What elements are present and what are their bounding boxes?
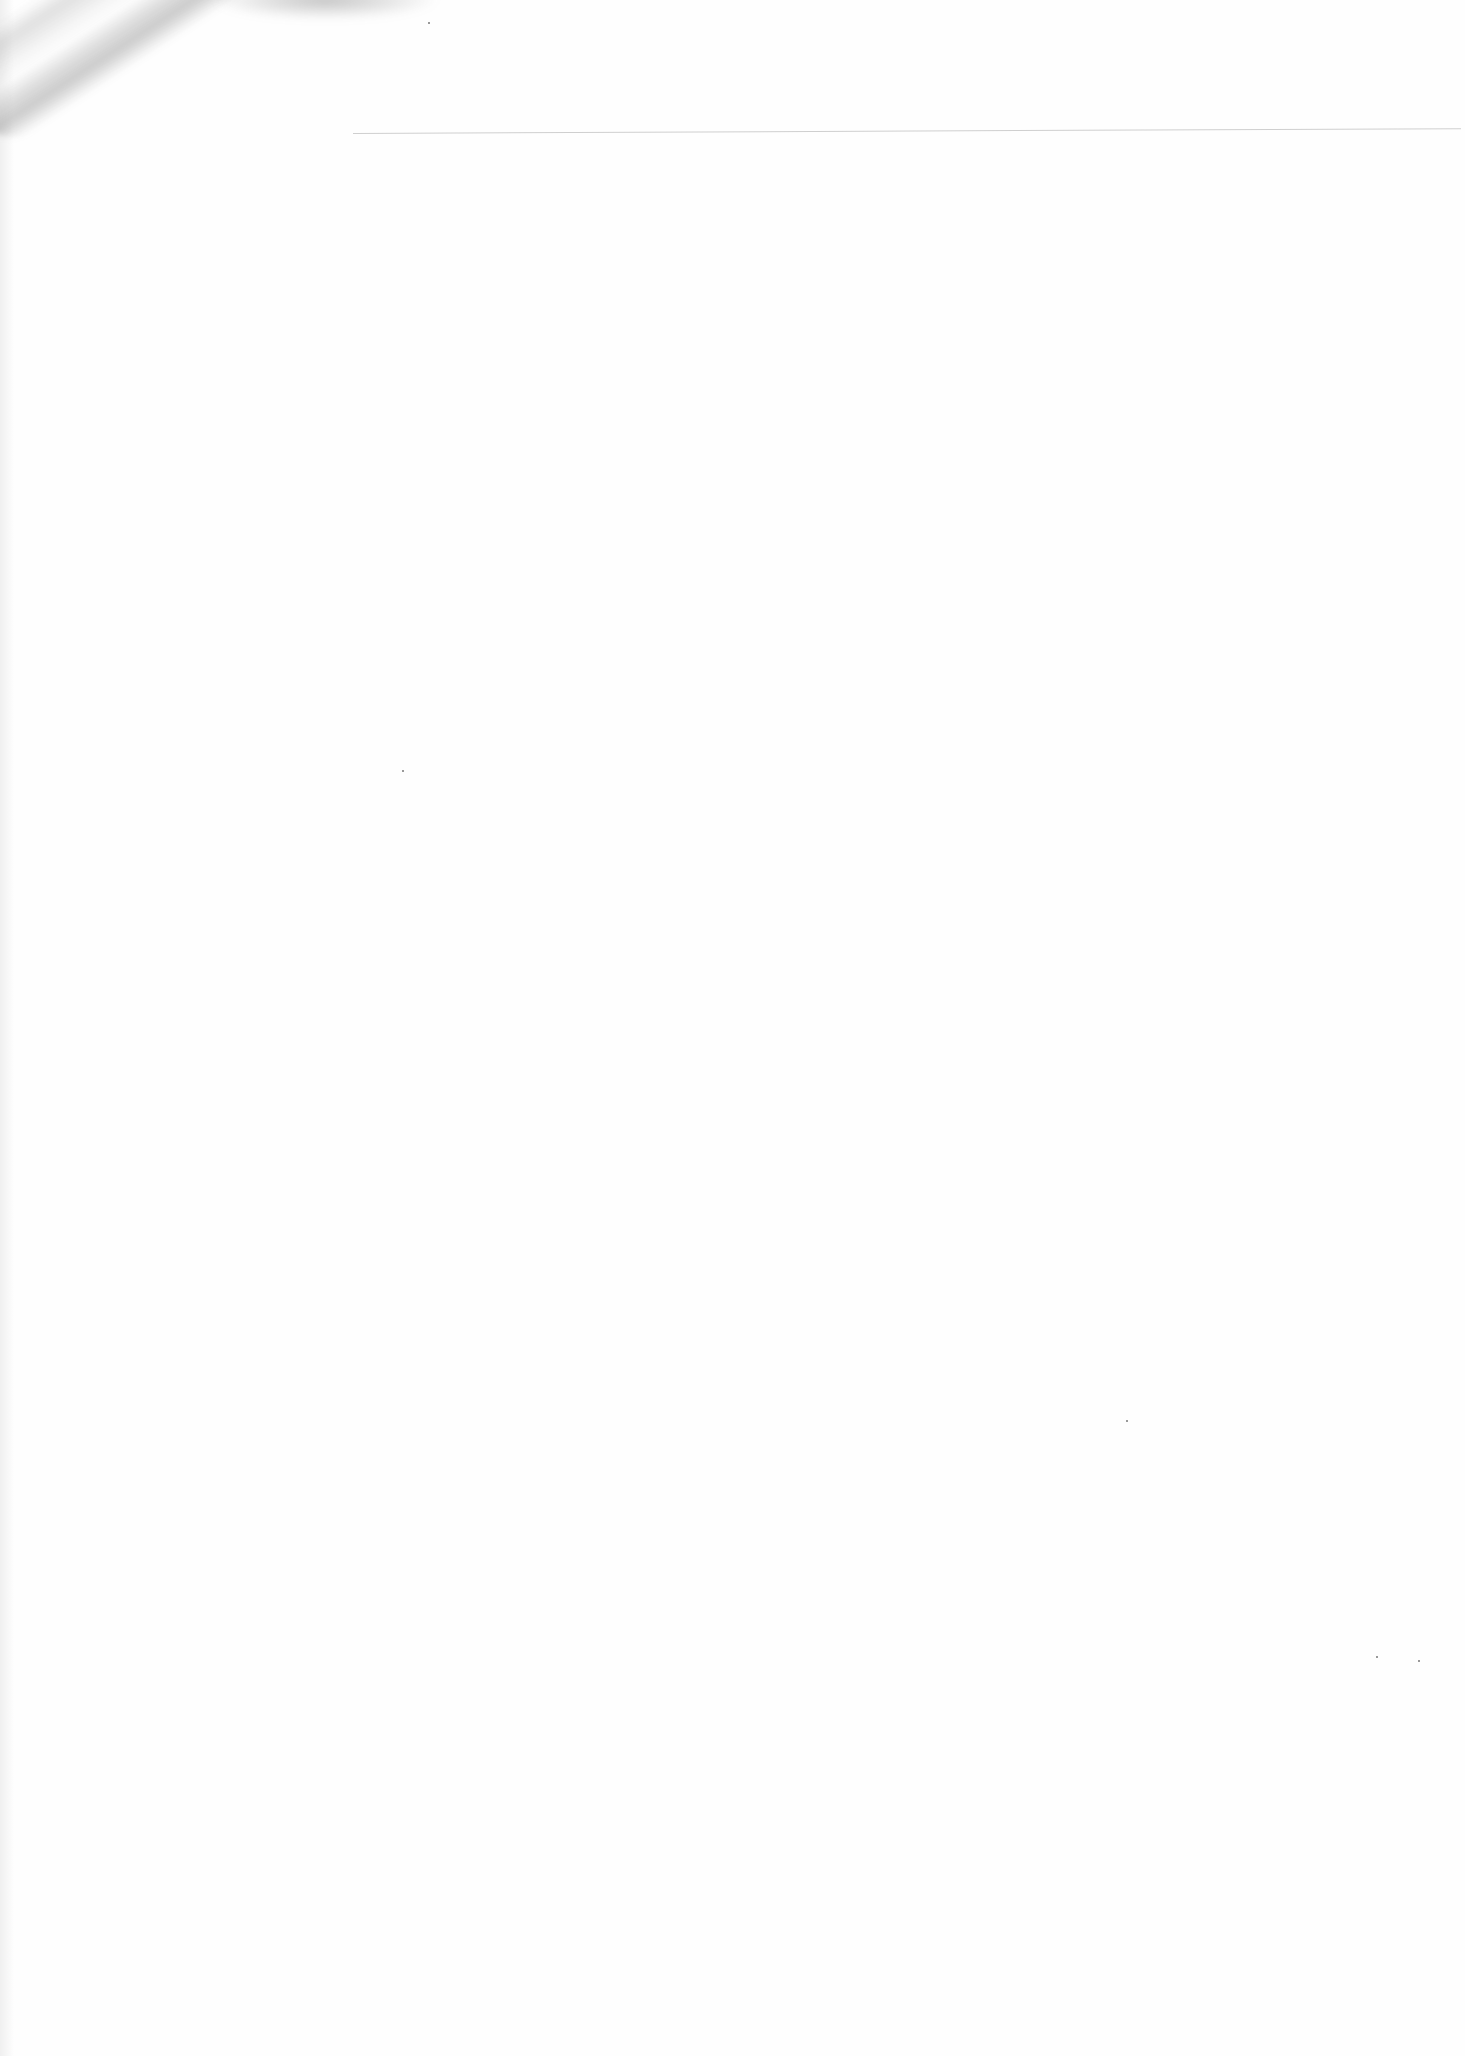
scan-speck bbox=[402, 770, 404, 772]
corner-smudge-dark bbox=[210, 0, 440, 20]
scan-speck bbox=[1418, 1660, 1420, 1662]
scan-speck bbox=[1376, 1656, 1378, 1658]
header-rule bbox=[353, 128, 1461, 134]
scan-speck bbox=[428, 22, 430, 24]
scanned-page bbox=[0, 0, 1465, 2056]
page-edge-shadow bbox=[0, 0, 14, 2056]
scan-speck bbox=[1126, 1420, 1128, 1422]
corner-smudge bbox=[0, 0, 470, 152]
